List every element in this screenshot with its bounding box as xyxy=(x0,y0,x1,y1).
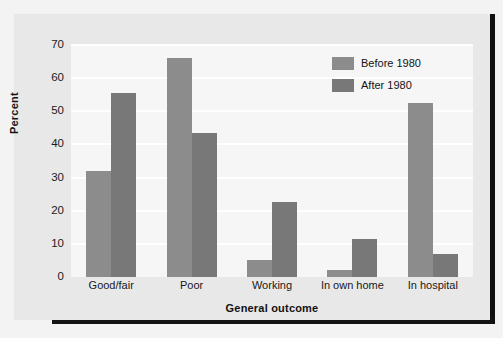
bar xyxy=(247,260,272,277)
y-tick-label: 30 xyxy=(18,172,64,184)
bar xyxy=(167,58,192,277)
y-axis: 010203040506070 xyxy=(14,45,64,277)
legend: Before 1980After 1980 xyxy=(332,56,421,100)
x-tick-label: In hospital xyxy=(373,280,493,291)
legend-swatch-icon xyxy=(332,79,354,92)
legend-item: After 1980 xyxy=(332,78,421,93)
y-tick-label: 20 xyxy=(18,205,64,217)
y-tick-label: 10 xyxy=(18,238,64,250)
bar-group xyxy=(247,45,297,277)
x-axis-title: General outcome xyxy=(71,302,473,314)
bar xyxy=(408,103,433,277)
bar xyxy=(433,254,458,277)
bar xyxy=(327,270,352,277)
chart-card: 010203040506070 Percent Good/fairPoorWor… xyxy=(14,14,490,320)
legend-swatch-icon xyxy=(332,57,354,70)
bar xyxy=(352,239,377,277)
y-axis-title: Percent xyxy=(8,92,20,134)
y-tick-label: 70 xyxy=(18,39,64,51)
bar xyxy=(272,202,297,277)
bar xyxy=(86,171,111,277)
bar-group xyxy=(167,45,217,277)
y-tick-label: 40 xyxy=(18,138,64,150)
y-tick-label: 50 xyxy=(18,105,64,117)
legend-label: After 1980 xyxy=(361,80,412,91)
bar xyxy=(111,93,136,277)
y-tick-label: 60 xyxy=(18,72,64,84)
x-axis-tick-labels: Good/fairPoorWorkingIn own homeIn hospit… xyxy=(71,280,473,298)
bar xyxy=(192,133,217,277)
bar-group xyxy=(86,45,136,277)
legend-label: Before 1980 xyxy=(361,58,421,69)
chart-page: 010203040506070 Percent Good/fairPoorWor… xyxy=(0,0,503,338)
legend-item: Before 1980 xyxy=(332,56,421,71)
